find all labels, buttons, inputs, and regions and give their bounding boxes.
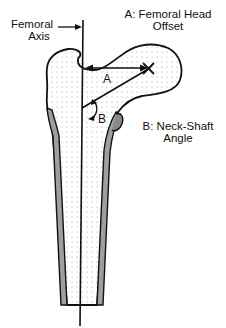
femoral-axis-label-line2: Axis xyxy=(2,30,62,42)
arrowhead-icon xyxy=(75,24,82,30)
offset-label-line1: A: Femoral Head xyxy=(125,8,212,20)
femur-outline xyxy=(47,45,182,305)
femur-diagram xyxy=(0,0,226,328)
marker-b-label: B xyxy=(98,113,106,125)
offset-label-line2: Offset xyxy=(153,20,183,32)
femoral-axis-label: Femoral Axis xyxy=(2,18,62,42)
marker-a-label: A xyxy=(103,73,111,85)
femoral-head-offset-label: A: Femoral Head Offset xyxy=(110,8,226,32)
angle-label-line2: Angle xyxy=(163,132,192,144)
neck-shaft-angle-label: B: Neck-Shaft Angle xyxy=(130,120,226,144)
femoral-axis-label-line1: Femoral xyxy=(11,18,53,30)
angle-label-line1: B: Neck-Shaft xyxy=(143,120,214,132)
